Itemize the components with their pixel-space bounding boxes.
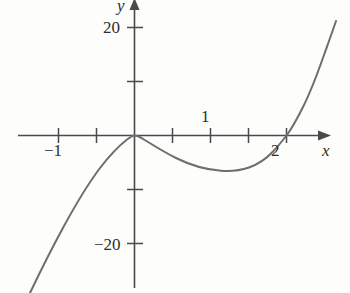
graph-figure: 20 −20 −1 1 2 x y xyxy=(0,0,350,293)
x-tick-label-2: 2 xyxy=(271,142,280,159)
y-axis-label: y xyxy=(117,0,125,14)
x-axis-arrow-icon xyxy=(318,131,331,141)
function-curve xyxy=(30,21,336,293)
x-axis-label: x xyxy=(322,142,330,159)
y-tick-label-20: 20 xyxy=(103,19,120,36)
x-tick-label-1: 1 xyxy=(201,108,210,125)
x-tick-label-neg1: −1 xyxy=(44,142,62,159)
y-tick-label-neg20: −20 xyxy=(94,236,121,253)
y-axis-arrow-icon xyxy=(130,0,140,10)
